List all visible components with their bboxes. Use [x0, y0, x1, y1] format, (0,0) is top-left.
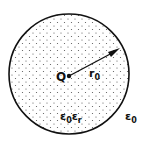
outer-permittivity-label: ε0	[125, 110, 137, 125]
charge-label: Q	[56, 70, 66, 84]
dielectric-sphere-diagram: Q r0 ε0εr ε0	[0, 0, 144, 146]
